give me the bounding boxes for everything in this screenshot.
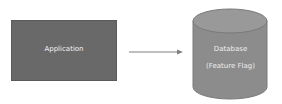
database-sublabel: (Feature Flag): [193, 62, 268, 70]
application-label: Application: [44, 45, 83, 53]
arrow-icon: [129, 48, 185, 56]
database-cylinder-icon: [192, 8, 270, 102]
database-label: Database: [193, 45, 268, 53]
application-node: Application: [11, 20, 117, 81]
